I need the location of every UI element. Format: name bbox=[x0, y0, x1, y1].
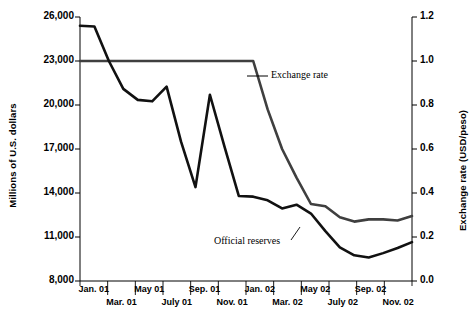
right-tick-label: 0.0 bbox=[420, 274, 434, 285]
right-tick-label: 1.2 bbox=[420, 10, 434, 21]
leader-line-official-reserves bbox=[291, 227, 300, 240]
x-tick-label-row1: Sep. 02 bbox=[336, 284, 406, 294]
annotation-official-reserves: Official reserves bbox=[214, 235, 280, 246]
left-tick-label: 14,000 bbox=[20, 186, 74, 197]
right-tick-label: 0.6 bbox=[420, 142, 434, 153]
right-tick-label: 0.8 bbox=[420, 98, 434, 109]
right-tick-label: 0.2 bbox=[420, 230, 434, 241]
left-tick-label: 17,000 bbox=[20, 142, 74, 153]
left-tick-label: 20,000 bbox=[20, 98, 74, 109]
annotation-exchange-rate: Exchange rate bbox=[271, 69, 328, 80]
left-tick-label: 11,000 bbox=[20, 230, 74, 241]
right-tick-label: 0.4 bbox=[420, 186, 434, 197]
x-tick-label-row2: Nov. 02 bbox=[363, 297, 433, 307]
right-tick-label: 1.0 bbox=[420, 54, 434, 65]
chart-figure: Millions of U.S. dollars Exchange rate (… bbox=[0, 0, 472, 324]
left-tick-label: 23,000 bbox=[20, 54, 74, 65]
left-tick-label: 26,000 bbox=[20, 10, 74, 21]
